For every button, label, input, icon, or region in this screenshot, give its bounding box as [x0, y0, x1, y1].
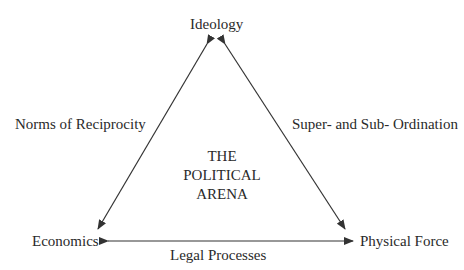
node-physical-force: Physical Force [360, 234, 449, 249]
edge-label-super-sub-ordination: Super- and Sub- Ordination [292, 117, 458, 132]
center-title: THE POLITICAL ARENA [162, 147, 282, 204]
node-ideology: Ideology [190, 17, 243, 32]
edge-label-norms-of-reciprocity: Norms of Reciprocity [15, 117, 146, 132]
center-title-line-2: POLITICAL [162, 166, 282, 185]
center-title-line-3: ARENA [162, 185, 282, 204]
arrows-layer [0, 0, 464, 270]
center-title-line-1: THE [162, 147, 282, 166]
edge-label-legal-processes: Legal Processes [170, 248, 266, 263]
node-economics: Economics [32, 234, 99, 249]
